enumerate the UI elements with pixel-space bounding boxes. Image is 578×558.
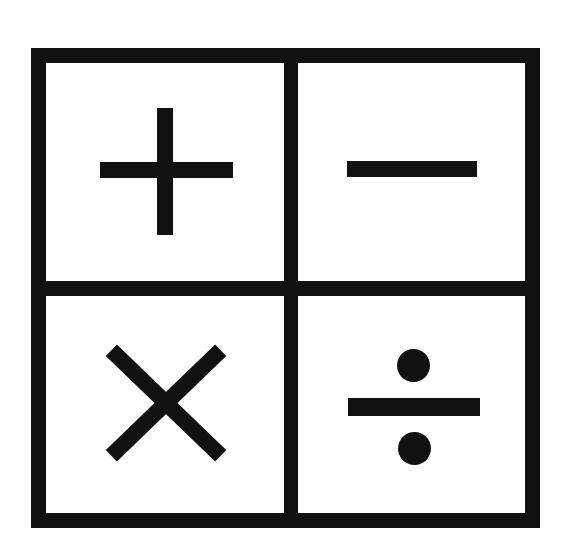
grid-divider-horizontal — [31, 281, 540, 296]
multiply-icon — [108, 347, 224, 458]
operator-grid-canvas: + − × ÷ — [0, 0, 578, 558]
plus-icon-vertical-stroke — [157, 108, 173, 235]
divide-icon-bar — [348, 398, 480, 416]
divide-icon-dot-bottom — [398, 432, 431, 465]
minus-icon-stroke — [347, 161, 477, 177]
divide-icon-dot-top — [397, 349, 430, 382]
